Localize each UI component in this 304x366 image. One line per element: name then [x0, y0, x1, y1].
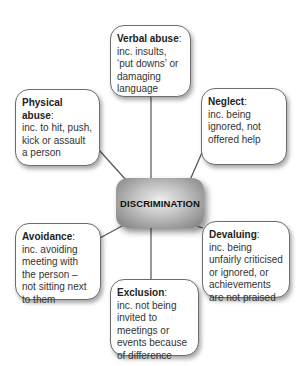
center-node-discrimination: DISCRIMINATION	[116, 178, 204, 228]
connector-avoidance	[100, 226, 122, 238]
node-text: inc. not being invited to meetings or ev…	[117, 300, 187, 361]
node-title: Exclusion	[117, 287, 164, 298]
node-title: Verbal abuse	[117, 33, 179, 44]
node-text: inc. avoiding meeting with the person – …	[22, 244, 86, 305]
node-text: inc. to hit, push, kick or assault a per…	[22, 122, 92, 158]
node-title: Physical abuse	[22, 97, 63, 121]
node-text: inc. being ignored, not offered help	[208, 109, 261, 145]
node-text: inc. being unfairly criticised or ignore…	[209, 242, 283, 303]
connector-physical	[99, 150, 126, 180]
node-physical-abuse: Physical abuse: inc. to hit, push, kick …	[15, 89, 100, 166]
node-neglect: Neglect: inc. being ignored, not offered…	[201, 88, 287, 165]
node-verbal-abuse: Verbal abuse: inc. insults, ‘put downs’ …	[110, 25, 191, 97]
node-avoidance: Avoidance: inc. avoiding meeting with th…	[15, 223, 101, 300]
center-label: DISCRIMINATION	[120, 198, 200, 209]
node-title: Neglect	[208, 96, 244, 107]
node-exclusion: Exclusion: inc. not being invited to mee…	[110, 279, 199, 356]
node-devaluing: Devaluing: inc. being unfairly criticise…	[202, 221, 290, 298]
node-title: Avoidance	[22, 231, 72, 242]
node-title: Devaluing	[209, 229, 257, 240]
node-text: inc. insults, ‘put downs’ or damaging la…	[117, 46, 178, 95]
